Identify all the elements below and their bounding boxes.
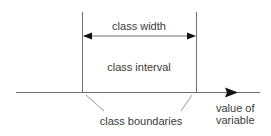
variable-label: variable: [216, 114, 255, 127]
left-leader-line: [86, 95, 104, 111]
left-arrowhead-icon: [83, 33, 92, 40]
class-boundaries-label: class boundaries: [100, 115, 183, 128]
value-axis: [16, 88, 260, 98]
class-width-double-arrow: [83, 33, 196, 40]
right-arrowhead-icon: [187, 33, 196, 40]
class-width-label: class width: [112, 20, 166, 33]
class-interval-label: class interval: [107, 61, 171, 74]
right-leader-line: [181, 95, 192, 111]
